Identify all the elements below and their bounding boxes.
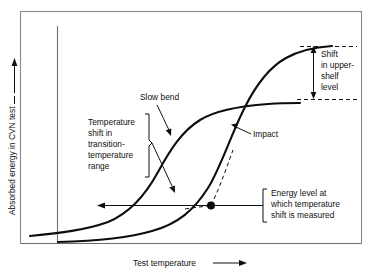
- transition-shift-line-3: transition-: [88, 139, 125, 149]
- transition-curve-diagram: Absorbed energy in CVN test Test tempera…: [0, 0, 391, 278]
- transition-shift-label-group: Temperature shift in transition- tempera…: [88, 114, 175, 193]
- x-axis-label: Test temperature: [133, 258, 196, 268]
- y-axis-label: Absorbed energy in CVN test: [7, 106, 17, 215]
- transition-shift-leader-arrow-head: [169, 185, 175, 193]
- upper-shelf-shift-group: Shift in upper- shelf level: [297, 46, 357, 100]
- impact-leader-line: [236, 127, 251, 134]
- upper-shelf-shift-line-1: Shift: [321, 49, 338, 59]
- energy-level-label-group: Energy level at which temperature shift …: [215, 188, 340, 222]
- upper-shelf-shift-line-2: in upper-: [321, 60, 354, 70]
- upper-shelf-shift-line-3: shelf: [321, 71, 339, 81]
- y-axis-arrow-head: [12, 58, 18, 66]
- figure-container: Absorbed energy in CVN test Test tempera…: [0, 0, 391, 278]
- transition-shift-line-1: Temperature: [88, 117, 135, 127]
- transition-shift-line-5: range: [88, 161, 110, 171]
- impact-label-group: Impact: [231, 123, 279, 139]
- slow-bend-label: Slow bend: [140, 92, 179, 102]
- energy-level-line-2: which temperature: [270, 199, 340, 209]
- slow-bend-curve: [30, 103, 300, 236]
- upper-shelf-shift-arrow-head-bottom: [311, 92, 317, 99]
- transition-shift-leader-line: [152, 143, 172, 186]
- x-axis-label-group: Test temperature: [133, 258, 247, 268]
- transition-shift-line-2: shift in: [88, 128, 113, 138]
- transition-shift-brace: [145, 114, 152, 177]
- temperature-shift-measure-arrow-head-left: [97, 203, 105, 209]
- energy-level-bracket: [263, 189, 267, 222]
- energy-level-marker-dot: [207, 202, 215, 210]
- energy-level-line-1: Energy level at: [271, 188, 327, 198]
- energy-level-line-3: shift is measured: [271, 210, 335, 220]
- upper-shelf-shift-line-4: level: [321, 82, 338, 92]
- transition-shift-line-4: temperature: [88, 150, 133, 160]
- slow-bend-leader-arrow-head: [166, 129, 172, 137]
- impact-label: Impact: [253, 129, 279, 139]
- x-axis-arrow-head: [239, 260, 247, 266]
- slow-bend-leader-line: [157, 105, 169, 130]
- y-axis-label-group: Absorbed energy in CVN test: [7, 58, 18, 215]
